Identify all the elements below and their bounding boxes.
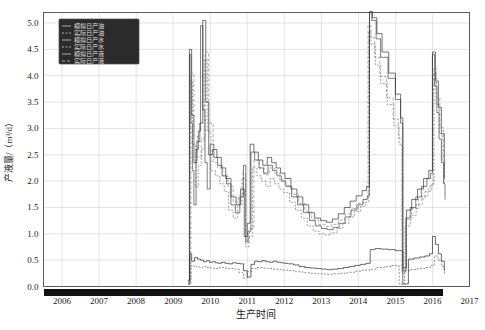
x-tick-label: 2007 xyxy=(90,296,109,306)
x-tick-label: 2010 xyxy=(201,296,220,306)
x-tick-label: 2016 xyxy=(423,296,442,306)
x-tick-label: 2006 xyxy=(53,296,72,306)
y-tick-label: 1.5 xyxy=(27,202,39,212)
chart-legend[interactable]: 模拟日产油实际日产油模拟日产水实际日产水模拟日产液实际日产液 xyxy=(59,19,139,65)
x-tick-label: 2011 xyxy=(238,296,256,306)
x-tick-label: 2009 xyxy=(164,296,183,306)
y-axis-ticks: 0.00.51.01.52.02.53.03.54.04.55.0 xyxy=(27,18,39,291)
y-tick-label: 0.0 xyxy=(27,282,39,292)
y-tick-label: 5.0 xyxy=(27,18,39,28)
y-tick-label: 3.0 xyxy=(27,123,39,133)
production-rate-chart: 0.00.51.01.52.02.53.03.54.04.55.0 200620… xyxy=(0,0,485,330)
x-axis-dark-band xyxy=(44,289,443,296)
chart-root: 0.00.51.01.52.02.53.03.54.04.55.0 200620… xyxy=(0,0,485,330)
y-axis-label: 产液量/（m³/d） xyxy=(3,118,14,182)
y-tick-label: 2.0 xyxy=(27,176,39,186)
x-axis-ticks: 2006200720082009201020112012201320142015… xyxy=(53,296,479,306)
x-axis-label: 生产时间 xyxy=(236,308,276,320)
legend-label-act_liquid: 实际日产液 xyxy=(74,57,104,65)
y-tick-label: 3.5 xyxy=(27,97,39,107)
y-tick-label: 0.5 xyxy=(27,255,39,265)
x-tick-label: 2014 xyxy=(349,296,368,306)
y-tick-label: 2.5 xyxy=(27,150,39,160)
x-tick-label: 2017 xyxy=(461,296,480,306)
y-tick-label: 4.0 xyxy=(27,71,39,81)
x-tick-label: 2012 xyxy=(275,296,293,306)
x-tick-label: 2008 xyxy=(127,296,146,306)
x-tick-label: 2013 xyxy=(312,296,331,306)
y-tick-label: 1.0 xyxy=(27,229,39,239)
x-tick-label: 2015 xyxy=(386,296,405,306)
series-layer xyxy=(188,11,445,284)
y-tick-label: 4.5 xyxy=(27,44,39,54)
